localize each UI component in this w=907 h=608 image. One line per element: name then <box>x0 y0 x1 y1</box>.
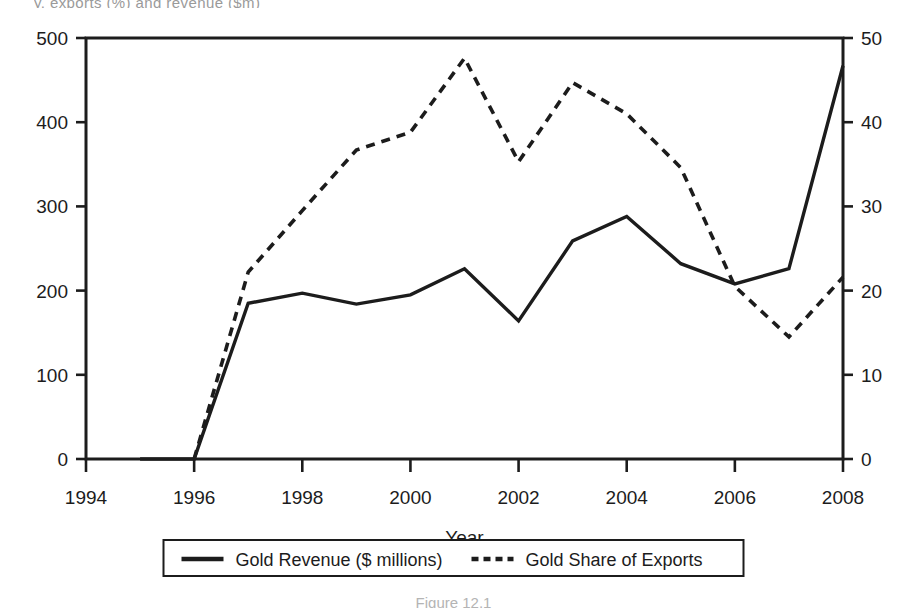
x-axis-tick-label: 1994 <box>65 487 108 508</box>
series-line-1 <box>140 66 843 459</box>
y-axis-right-tick-label: 30 <box>861 196 882 217</box>
y-axis-right-tick-label: 40 <box>861 112 882 133</box>
chart-generated-layer: 0100200300400500010203040501994199619982… <box>36 28 882 576</box>
y-axis-left-tick-label: 500 <box>36 28 68 49</box>
y-axis-left-tick-label: 0 <box>57 449 68 470</box>
y-axis-left-tick-label: 400 <box>36 112 68 133</box>
y-axis-left-tick-label: 200 <box>36 281 68 302</box>
y-axis-left-tick-label: 100 <box>36 365 68 386</box>
y-axis-right-tick-label: 0 <box>861 449 872 470</box>
x-axis-tick-label: 2006 <box>714 487 756 508</box>
x-axis-tick-label: 1996 <box>173 487 215 508</box>
figure-caption: Figure 12.1 <box>0 594 907 608</box>
series-line-2 <box>194 58 843 459</box>
legend-label-2: Gold Share of Exports <box>526 550 703 570</box>
y-axis-right-tick-label: 10 <box>861 365 882 386</box>
y-axis-left-tick-label: 300 <box>36 196 68 217</box>
plot-frame <box>86 38 843 459</box>
x-axis-tick-label: 2008 <box>822 487 864 508</box>
x-axis-tick-label: 1998 <box>281 487 323 508</box>
y-axis-right-tick-label: 50 <box>861 28 882 49</box>
legend-label-1: Gold Revenue ($ millions) <box>236 550 443 570</box>
y-axis-right-tick-label: 20 <box>861 281 882 302</box>
x-axis-tick-label: 2004 <box>606 487 649 508</box>
x-axis-tick-label: 2002 <box>497 487 539 508</box>
x-axis-tick-label: 2000 <box>389 487 431 508</box>
